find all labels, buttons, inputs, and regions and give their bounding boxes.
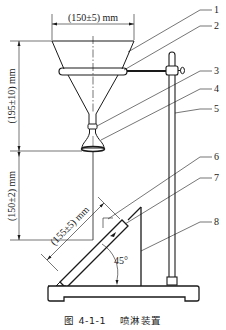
- ring-clamp: [59, 66, 185, 75]
- part-label-5: 5: [214, 103, 219, 114]
- top-width-label: (150±5) mm: [68, 12, 118, 24]
- base-plate: [48, 286, 199, 301]
- part-label-8: 8: [214, 216, 219, 227]
- angle-label: 45°: [114, 255, 128, 266]
- spray-head: [82, 133, 105, 152]
- specimen-length-label: (155±5) mm: [48, 204, 92, 248]
- leader-lines: [97, 10, 212, 251]
- part-label-4: 4: [214, 83, 219, 94]
- caption-title: 喷淋装置: [120, 315, 162, 326]
- funnel-height-dimension: [10, 41, 82, 151]
- nozzle-distance-label: (150±2) mm: [6, 171, 18, 221]
- figure-caption: 图 4-1-1 喷淋装置: [0, 313, 226, 327]
- caption-number: 图 4-1-1: [64, 315, 106, 326]
- funnel-height-label: (195±10) mm: [6, 68, 18, 123]
- part-label-6: 6: [214, 151, 219, 162]
- spray-apparatus-diagram: (150±5) mm (195±10) mm (150±2) mm (155±5…: [0, 0, 226, 330]
- part-label-1: 1: [214, 4, 219, 15]
- part-label-2: 2: [214, 20, 219, 31]
- stand-rod: [167, 52, 177, 285]
- nozzle-stem: [88, 114, 97, 133]
- part-label-3: 3: [214, 65, 219, 76]
- part-label-7: 7: [214, 172, 219, 183]
